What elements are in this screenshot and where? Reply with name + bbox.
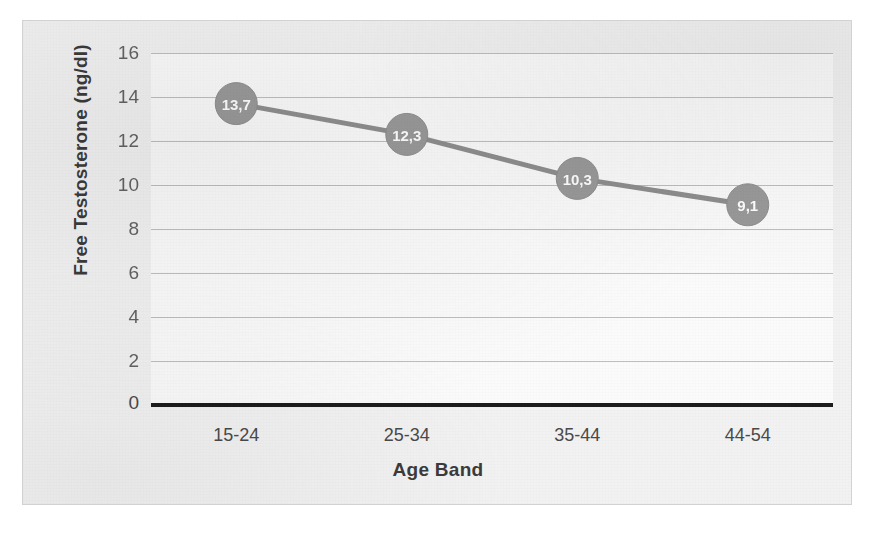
- x-tick-label-35-44: 35-44: [554, 425, 600, 446]
- series-line-free-testosterone: [236, 104, 748, 205]
- x-tick-label-25-34: 25-34: [384, 425, 430, 446]
- y-axis-title: Free Testosterone (ng/dl): [70, 10, 92, 310]
- data-label-25-34: 12,3: [392, 127, 421, 144]
- plot-area: 0246810121416 15-2425-3435-4444-54 13,71…: [151, 53, 833, 405]
- y-tick-label-16: 16: [118, 42, 139, 64]
- data-label-15-24: 13,7: [222, 96, 251, 113]
- x-axis-title: Age Band: [23, 459, 853, 481]
- y-tick-label-12: 12: [118, 130, 139, 152]
- y-tick-label-0: 0: [128, 392, 139, 414]
- data-point-15-24: 13,7: [215, 83, 257, 125]
- y-tick-label-14: 14: [118, 86, 139, 108]
- x-tick-label-15-24: 15-24: [213, 425, 259, 446]
- data-label-35-44: 10,3: [563, 171, 592, 188]
- y-tick-label-6: 6: [128, 262, 139, 284]
- data-label-44-54: 9,1: [737, 197, 758, 214]
- scanned-page: Free Testosterone (ng/dl) 0246810121416 …: [0, 0, 874, 536]
- data-point-44-54: 9,1: [727, 184, 769, 226]
- y-tick-label-8: 8: [128, 218, 139, 240]
- y-tick-label-10: 10: [118, 174, 139, 196]
- y-tick-label-4: 4: [128, 306, 139, 328]
- data-point-35-44: 10,3: [556, 157, 598, 199]
- chart-frame: Free Testosterone (ng/dl) 0246810121416 …: [22, 20, 852, 505]
- y-tick-label-2: 2: [128, 350, 139, 372]
- x-tick-label-44-54: 44-54: [725, 425, 771, 446]
- data-point-25-34: 12,3: [386, 113, 428, 155]
- data-series-layer: 13,712,310,39,1: [151, 53, 833, 405]
